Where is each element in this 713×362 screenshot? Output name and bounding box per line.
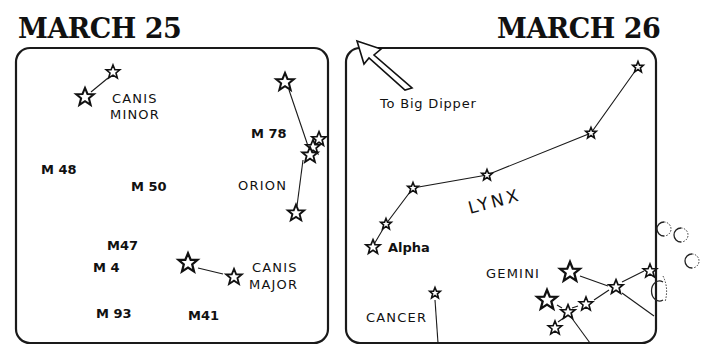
constellation-orion: ORION <box>238 73 326 220</box>
star-chart: MARCH 25 CANIS MINOR ORION M 78 <box>0 0 713 362</box>
label-m41: M41 <box>188 308 219 323</box>
cluster-m93: M 93 <box>79 306 132 326</box>
moon-icon <box>657 222 671 236</box>
star-icon <box>537 290 557 309</box>
label-alpha: Alpha <box>388 240 430 255</box>
star-icon <box>482 170 493 180</box>
label-orion: ORION <box>238 178 287 193</box>
cluster-m78: M 78 <box>251 126 299 147</box>
star-icon <box>226 269 242 284</box>
star-icon <box>548 321 562 334</box>
moon-icon <box>685 254 699 268</box>
star-icon <box>76 88 94 105</box>
panel-title: MARCH 25 <box>18 13 181 44</box>
label-m93: M 93 <box>96 306 132 321</box>
panel-march-25: MARCH 25 CANIS MINOR ORION M 78 <box>16 13 328 343</box>
star-icon <box>643 264 657 277</box>
star-icon <box>586 128 597 138</box>
cluster-icon <box>26 175 38 187</box>
cluster-m41: M41 <box>182 290 219 323</box>
panel-frame <box>16 48 328 343</box>
cluster-icon <box>79 314 91 326</box>
star-icon <box>561 305 575 319</box>
star-icon <box>579 297 593 310</box>
label-to-big-dipper: To Big Dipper <box>379 96 477 111</box>
label-lynx: LYNX <box>466 185 523 218</box>
constellation-cancer: CANCER <box>366 288 440 344</box>
star-icon <box>366 240 380 254</box>
star-icon <box>633 62 644 72</box>
label-canis-minor: CANIS <box>112 91 158 106</box>
label-m4: M 4 <box>93 260 120 275</box>
star-icon <box>430 288 441 298</box>
moon-icon <box>652 276 667 302</box>
constellation-canis-minor: CANIS MINOR <box>76 65 160 122</box>
star-icon <box>560 262 580 281</box>
constellation-lynx: LYNX Alpha <box>366 62 643 256</box>
star-icon <box>178 253 197 271</box>
panel-title: MARCH 26 <box>497 13 660 44</box>
moon-icon <box>674 228 688 242</box>
star-icon <box>288 205 304 221</box>
star-icon <box>408 183 419 193</box>
label-canis-minor: MINOR <box>110 107 160 122</box>
star-icon <box>276 73 294 90</box>
constellation-gemini: GEMINI <box>486 262 657 343</box>
cluster-icon <box>155 197 167 209</box>
panel-march-26: MARCH 26 To Big Dipper LYNX Alpha <box>346 13 699 343</box>
cluster-m48: M 48 <box>26 162 77 187</box>
star-icon <box>609 280 623 294</box>
label-m47: M47 <box>107 238 138 253</box>
label-canis-major: CANIS <box>252 260 298 275</box>
cluster-icon <box>182 290 194 302</box>
label-cancer: CANCER <box>366 310 427 325</box>
label-canis-major: MAJOR <box>249 277 298 292</box>
cluster-icon <box>287 135 299 147</box>
cluster-icon <box>77 244 89 256</box>
cluster-icon <box>89 242 101 254</box>
star-icon <box>106 65 120 78</box>
cluster-m47-m4: M47 M 4 <box>77 238 138 275</box>
constellation-canis-major: CANIS MAJOR <box>178 253 298 292</box>
star-icon <box>381 219 392 229</box>
label-m48: M 48 <box>41 162 77 177</box>
cluster-m50: M 50 <box>131 179 167 209</box>
label-m50: M 50 <box>131 179 167 194</box>
label-gemini: GEMINI <box>486 266 540 281</box>
label-m78: M 78 <box>251 126 287 141</box>
moon-phase-icons <box>652 222 699 302</box>
